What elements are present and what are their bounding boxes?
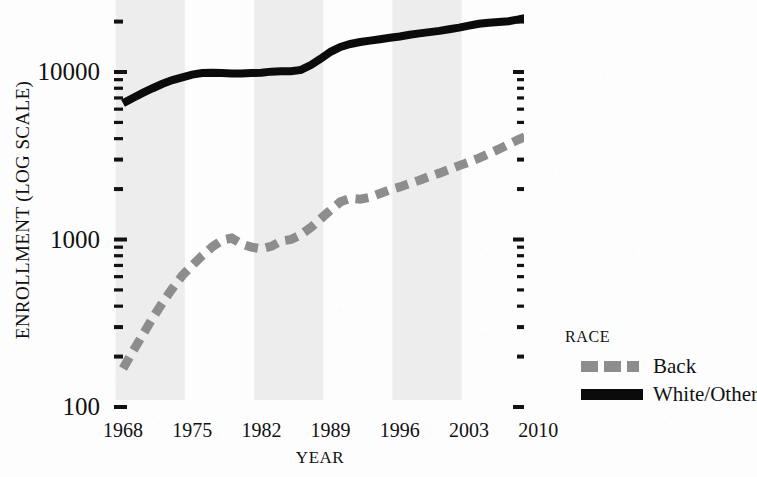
plot-area	[112, 0, 524, 412]
axis-tick-minor	[517, 108, 524, 111]
legend-swatch-dashed-line	[581, 361, 643, 372]
axis-tick-minor	[114, 78, 123, 81]
y-tick-label: 1000	[8, 227, 100, 252]
legend-label-white-other: White/Other	[653, 384, 757, 405]
alternating-year-bands	[116, 0, 462, 400]
axis-tick-minor	[114, 264, 123, 267]
y-axis-tick-labels: 100001000100	[8, 0, 100, 477]
axis-tick-major	[513, 238, 524, 242]
axis-tick-minor	[517, 325, 524, 329]
x-tick-label: 1996	[380, 420, 420, 440]
legend-item-white-other: White/Other	[563, 380, 753, 408]
axis-tick-minor	[114, 121, 123, 124]
y-tick-label: 10000	[8, 59, 100, 84]
axis-tick-minor	[517, 158, 524, 162]
legend-label-back: Back	[653, 356, 696, 377]
axis-tick-minor	[517, 121, 524, 124]
axis-tick-minor	[114, 96, 123, 99]
axis-tick-minor	[517, 355, 524, 359]
axis-tick-minor	[517, 246, 524, 249]
axis-tick-minor	[517, 187, 524, 191]
axis-tick-major	[114, 70, 127, 74]
axis-tick-minor	[517, 87, 524, 90]
axis-tick-minor	[114, 108, 123, 111]
x-tick-label: 1989	[311, 420, 351, 440]
axis-tick-minor	[517, 254, 524, 257]
x-tick-label: 1968	[103, 420, 143, 440]
axis-tick-minor	[517, 305, 524, 308]
axis-tick-major	[114, 405, 127, 409]
axis-tick-minor	[517, 96, 524, 99]
axis-tick-minor	[114, 20, 123, 24]
axis-tick-minor	[517, 264, 524, 267]
axis-tick-minor	[114, 158, 123, 162]
plot-svg	[112, 0, 524, 412]
legend-swatch-solid-line	[581, 389, 643, 400]
x-axis-tick-labels: 1968197519821989199620032010	[0, 420, 757, 448]
axis-tick-minor	[114, 325, 123, 329]
axis-tick-minor	[114, 288, 123, 291]
axis-tick-major	[114, 238, 127, 242]
axis-tick-major	[513, 405, 524, 409]
axis-tick-minor	[114, 355, 123, 359]
axis-tick-major	[513, 70, 524, 74]
x-tick-label: 2003	[449, 420, 489, 440]
year-band	[392, 0, 461, 400]
legend-title: RACE	[563, 328, 753, 346]
x-tick-label: 1975	[172, 420, 212, 440]
axis-tick-minor	[114, 187, 123, 191]
x-tick-label: 2010	[518, 420, 558, 440]
right-log-tick-marks	[513, 20, 524, 409]
year-band	[116, 0, 185, 400]
chart-legend: RACE Back White/Other	[563, 328, 753, 408]
axis-tick-minor	[517, 275, 524, 278]
axis-tick-minor	[114, 305, 123, 308]
y-tick-label: 100	[8, 394, 100, 419]
axis-tick-minor	[517, 78, 524, 81]
axis-tick-minor	[114, 246, 123, 249]
axis-tick-minor	[517, 288, 524, 291]
axis-tick-minor	[114, 87, 123, 90]
x-axis-title: YEAR	[110, 448, 530, 468]
chart-figure: ENROLLMENT (LOG SCALE) 100001000100 1968…	[0, 0, 757, 477]
axis-tick-minor	[114, 137, 123, 140]
legend-item-back: Back	[563, 352, 753, 380]
x-tick-label: 1982	[241, 420, 281, 440]
axis-tick-minor	[114, 275, 123, 278]
axis-tick-minor	[114, 254, 123, 257]
